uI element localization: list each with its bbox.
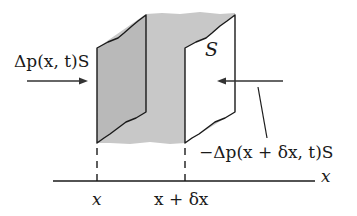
tick-label-x: x [92, 191, 102, 208]
right-force-label: −Δp(x + δx, t)S [199, 144, 333, 161]
left-force-label: Δp(x, t)S [14, 53, 89, 70]
area-label: S [205, 40, 218, 59]
diagram-canvas: Δp(x, t)S S −Δp(x + δx, t)S x x x + δx [0, 0, 357, 216]
tick-label-x-dx: x + δx [154, 191, 208, 208]
diagram-graphics [0, 0, 357, 216]
leader-line [258, 87, 267, 138]
left-force-arrow [27, 78, 88, 85]
axis-label: x [321, 168, 331, 185]
